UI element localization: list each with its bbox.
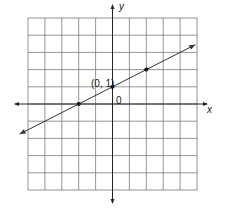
- point-label: (0, 1): [91, 78, 114, 89]
- origin-label: 0: [116, 95, 122, 106]
- plot-line: [20, 45, 196, 134]
- y-axis-label: y: [118, 1, 125, 12]
- data-point: [144, 68, 148, 72]
- y-axis-down-arrow-icon: [111, 199, 115, 204]
- x-axis-label: x: [206, 104, 213, 115]
- coordinate-graph: y x (0, 1) 0: [0, 0, 229, 208]
- function-line: [20, 45, 196, 134]
- y-axis-up-arrow-icon: [111, 4, 115, 9]
- axes: [14, 4, 208, 204]
- data-point: [77, 102, 81, 106]
- x-axis-left-arrow-icon: [14, 102, 19, 106]
